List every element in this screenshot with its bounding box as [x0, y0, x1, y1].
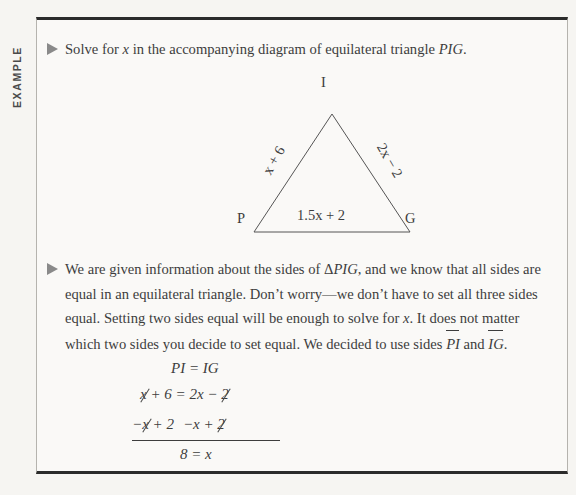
cancelled-term-x: x — [142, 416, 149, 433]
equation-line-3-right: −x + — [183, 416, 217, 432]
equation-line-2-middle: + 6 = 2x − — [147, 386, 222, 402]
cancelled-term-x: x — [140, 386, 147, 403]
equation-line-1: PI = IG — [171, 360, 219, 377]
minus-sign-left: − — [132, 416, 142, 432]
side-label-base: 1.5x + 2 — [297, 207, 345, 224]
variable-x: x — [403, 310, 409, 326]
segment-ig: IG — [488, 331, 503, 357]
problem-statement-text: Solve for x in the accompanying diagram … — [65, 37, 467, 62]
vertex-label-g: G — [405, 210, 415, 227]
triangle-name-pig: PIG — [439, 41, 463, 57]
triangle-name-pig: PIG — [333, 261, 357, 277]
equation-horizontal-rule — [132, 440, 280, 441]
vertex-label-p: P — [237, 210, 245, 227]
cancelled-term-2: 2 — [217, 416, 225, 433]
example-tab: EXAMPLE — [0, 0, 34, 120]
variable-x: x — [123, 41, 129, 57]
equation-line-3: −x + 2−x + 2 — [132, 416, 225, 433]
triangle-diagram: I P G x + 6 2x − 2 1.5x + 2 — [237, 72, 437, 252]
equation-line-2: x + 6 = 2x − 2 — [140, 386, 229, 403]
example-tab-label: EXAMPLE — [11, 8, 23, 108]
triangle-right-icon — [47, 263, 60, 275]
problem-statement-row: Solve for x in the accompanying diagram … — [47, 37, 552, 62]
solution-explanation-row: We are given information about the sides… — [47, 257, 552, 356]
example-box: Solve for x in the accompanying diagram … — [36, 17, 568, 474]
triangle-right-icon — [47, 43, 60, 55]
solution-explanation-text: We are given information about the sides… — [65, 257, 552, 356]
equation-line-3-left: + 2 — [149, 416, 174, 432]
cancelled-term-2: 2 — [221, 386, 229, 403]
vertex-label-i: I — [321, 74, 326, 91]
equation-line-4-answer: 8 = x — [180, 446, 212, 463]
segment-pi: PI — [446, 331, 460, 357]
